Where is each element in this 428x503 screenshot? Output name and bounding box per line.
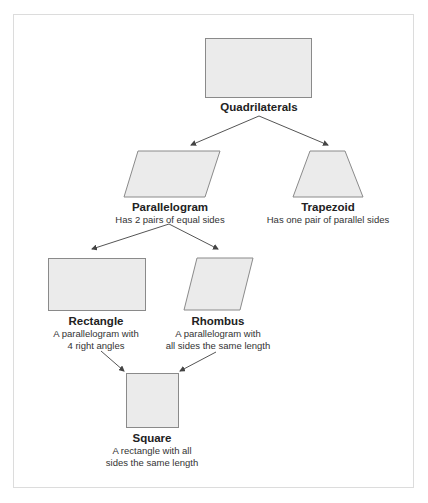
trapezoid-label: Trapezoid Has one pair of parallel sides bbox=[267, 200, 390, 226]
rectangle-desc-line2: 4 right angles bbox=[53, 340, 139, 352]
rhombus-title: Rhombus bbox=[166, 314, 271, 328]
square-desc-line1: A rectangle with all bbox=[106, 445, 198, 457]
arrow-quadrilaterals-parallelogram bbox=[191, 116, 259, 145]
diagram-canvas bbox=[0, 0, 428, 503]
parallelogram-desc: Has 2 pairs of equal sides bbox=[115, 214, 224, 226]
trapezoid-title: Trapezoid bbox=[267, 200, 390, 214]
quadrilaterals-label: Quadrilaterals bbox=[220, 100, 297, 114]
rectangle-desc-line1: A parallelogram with bbox=[53, 328, 139, 340]
parallelogram-title: Parallelogram bbox=[115, 200, 224, 214]
rhombus-shape bbox=[184, 258, 253, 310]
rhombus-desc-line2: all sides the same length bbox=[166, 340, 271, 352]
arrow-quadrilaterals-trapezoid bbox=[259, 116, 328, 145]
rhombus-desc-line1: A parallelogram with bbox=[166, 328, 271, 340]
arrow-parallelogram-rhombus bbox=[169, 224, 218, 249]
square-label: Square A rectangle with all sides the sa… bbox=[106, 431, 198, 469]
rectangle-label: Rectangle A parallelogram with 4 right a… bbox=[53, 314, 139, 352]
quadrilaterals-title: Quadrilaterals bbox=[220, 100, 297, 114]
rectangle-shape bbox=[49, 259, 146, 311]
rhombus-label: Rhombus A parallelogram with all sides t… bbox=[166, 314, 271, 352]
square-title: Square bbox=[106, 431, 198, 445]
parallelogram-label: Parallelogram Has 2 pairs of equal sides bbox=[115, 200, 224, 226]
arrow-parallelogram-rectangle bbox=[92, 224, 169, 249]
quadrilaterals-shape bbox=[206, 39, 312, 98]
trapezoid-desc: Has one pair of parallel sides bbox=[267, 214, 390, 226]
trapezoid-shape bbox=[293, 151, 363, 197]
square-desc-line2: sides the same length bbox=[106, 457, 198, 469]
arrow-rectangle-square bbox=[101, 351, 124, 371]
parallelogram-shape bbox=[124, 151, 220, 197]
rectangle-title: Rectangle bbox=[53, 314, 139, 328]
arrow-rhombus-square bbox=[180, 352, 216, 371]
square-shape bbox=[127, 374, 179, 428]
